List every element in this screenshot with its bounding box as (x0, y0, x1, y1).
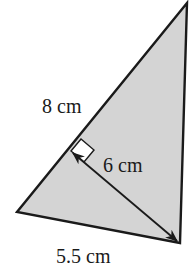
base-length-label-5-5cm: 5.5 cm (56, 246, 110, 266)
triangle-shape (17, 3, 187, 243)
side-length-label-8cm: 8 cm (42, 96, 81, 116)
altitude-length-label-6cm: 6 cm (103, 155, 142, 175)
triangle-diagram (0, 0, 194, 278)
